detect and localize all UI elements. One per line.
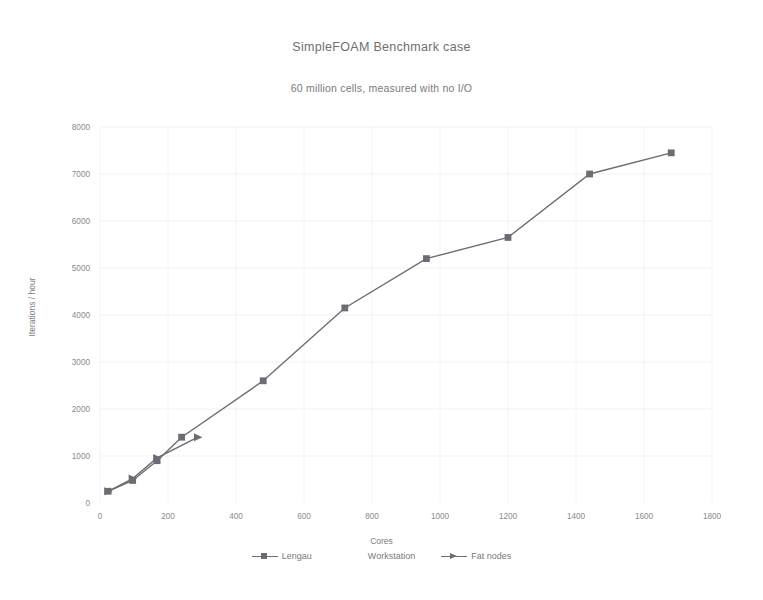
y-tick-label: 4000	[72, 311, 91, 320]
y-tick-label: 7000	[72, 170, 91, 179]
x-tick-label: 1800	[703, 512, 722, 521]
data-series-group	[104, 149, 674, 495]
data-point-marker-square	[260, 377, 267, 384]
legend-marker-triangle-icon	[441, 552, 467, 561]
x-tick-label: 400	[229, 512, 243, 521]
x-axis-tick-labels: 020040060080010001200140016001800	[98, 512, 722, 521]
y-tick-label: 8000	[72, 123, 91, 132]
y-tick-label: 1000	[72, 452, 91, 461]
legend-item-lengau[interactable]: Lengau	[252, 551, 312, 561]
x-tick-label: 600	[297, 512, 311, 521]
x-tick-label: 1200	[499, 512, 518, 521]
data-point-marker-square	[178, 434, 185, 441]
plot-area: 010002000300040005000600070008000 020040…	[0, 0, 763, 600]
data-point-marker-square	[341, 305, 348, 312]
x-tick-label: 1000	[431, 512, 450, 521]
gridlines	[100, 127, 712, 503]
data-point-marker-triangle	[194, 433, 203, 441]
legend-item-fat-nodes[interactable]: Fat nodes	[441, 551, 511, 561]
legend-item-workstation[interactable]: Workstation	[338, 551, 415, 561]
data-point-marker-square	[505, 234, 512, 241]
data-point-marker-square	[668, 149, 675, 156]
x-tick-label: 0	[98, 512, 103, 521]
legend-marker-square-icon	[252, 552, 278, 561]
chart-legend: Lengau Workstation Fat nodes	[0, 551, 763, 561]
y-axis-tick-labels: 010002000300040005000600070008000	[72, 123, 91, 508]
data-point-marker-square	[586, 171, 593, 178]
legend-label: Workstation	[368, 551, 415, 561]
legend-label: Lengau	[282, 551, 312, 561]
y-tick-label: 2000	[72, 405, 91, 414]
series-lengau	[105, 149, 675, 494]
x-axis-title: Cores	[0, 536, 763, 546]
x-tick-label: 200	[161, 512, 175, 521]
legend-marker-none-icon	[338, 552, 364, 561]
y-tick-label: 5000	[72, 264, 91, 273]
chart-container: SimpleFOAM Benchmark case 60 million cel…	[0, 0, 763, 600]
x-tick-label: 1400	[567, 512, 586, 521]
y-tick-label: 3000	[72, 358, 91, 367]
x-tick-label: 1600	[635, 512, 654, 521]
y-axis-title: Iterations / hour	[27, 257, 37, 357]
data-point-marker-square	[423, 255, 430, 262]
x-tick-label: 800	[365, 512, 379, 521]
legend-label: Fat nodes	[471, 551, 511, 561]
y-tick-label: 0	[85, 499, 90, 508]
y-tick-label: 6000	[72, 217, 91, 226]
